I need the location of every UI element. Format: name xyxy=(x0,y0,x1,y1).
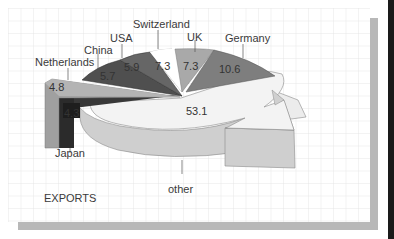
label-china: China xyxy=(84,44,114,56)
right-edge xyxy=(388,0,394,239)
value-switzerland: 7.3 xyxy=(155,60,170,72)
exports-pie-chart: Switzerland UK Germany USA China Netherl… xyxy=(0,0,394,239)
label-uk: UK xyxy=(187,31,203,43)
frame-shadow-bottom xyxy=(18,222,378,230)
value-uk: 7.3 xyxy=(183,60,198,72)
label-netherlands: Netherlands xyxy=(35,56,95,68)
chart-title: EXPORTS xyxy=(44,192,96,204)
label-germany: Germany xyxy=(225,32,271,44)
value-japan: 4.3 xyxy=(64,107,79,119)
frame-shadow-right xyxy=(370,18,378,230)
value-usa: 5.9 xyxy=(124,61,139,73)
value-other: 53.1 xyxy=(186,105,207,117)
label-other: other xyxy=(168,183,193,195)
label-switzerland: Switzerland xyxy=(133,18,190,30)
label-japan: Japan xyxy=(55,147,85,159)
value-china: 5.7 xyxy=(100,70,115,82)
value-netherlands: 4.8 xyxy=(49,81,64,93)
label-usa: USA xyxy=(110,32,133,44)
value-germany: 10.6 xyxy=(219,63,240,75)
